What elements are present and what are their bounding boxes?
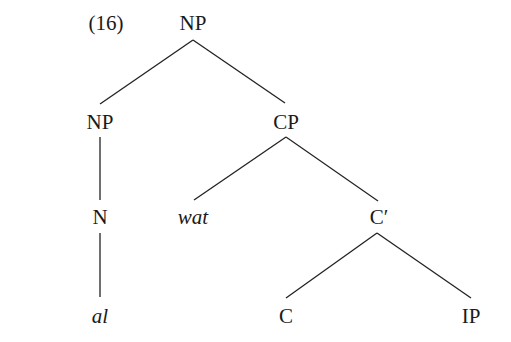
- branch-cbar-to-ip: [377, 233, 471, 298]
- node-al: al: [92, 305, 108, 327]
- node-np-left: NP: [87, 111, 114, 133]
- syntax-tree: (16) NP NP CP N wat C′ al C IP: [0, 0, 511, 342]
- tree-branches: [0, 0, 511, 342]
- branch-cbar-to-c: [286, 233, 377, 298]
- branch-cp-to-wat: [194, 137, 286, 200]
- node-cp: CP: [273, 111, 299, 133]
- example-number: (16): [89, 12, 124, 34]
- node-ip: IP: [462, 305, 481, 327]
- node-c: C: [279, 305, 293, 327]
- branch-np-root-to-cp: [193, 40, 285, 103]
- node-np-root: NP: [180, 12, 207, 34]
- node-wat: wat: [178, 206, 208, 228]
- node-n: N: [92, 206, 107, 228]
- branch-np-root-to-np: [100, 40, 193, 104]
- branch-cp-to-cbar: [286, 137, 378, 201]
- node-c-bar: C′: [370, 206, 389, 228]
